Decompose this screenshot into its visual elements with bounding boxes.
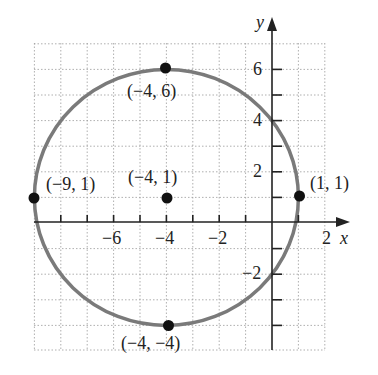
x-tick-label: 2 bbox=[322, 228, 331, 248]
y-tick-label: −2 bbox=[242, 263, 261, 283]
point-top bbox=[160, 63, 171, 74]
circle-graph: −6 −4 −2 2 x y 6 4 2 −2 (−4, 6) (−9, 1) … bbox=[0, 0, 378, 375]
point-center bbox=[162, 193, 173, 204]
point-bottom bbox=[163, 320, 174, 331]
x-tick-label: −6 bbox=[102, 228, 121, 248]
point-label-top: (−4, 6) bbox=[127, 81, 176, 102]
x-axis-arrow-icon bbox=[336, 217, 350, 227]
point-left bbox=[29, 193, 40, 204]
x-axis-label: x bbox=[339, 228, 348, 248]
point-label-left: (−9, 1) bbox=[46, 174, 95, 195]
x-tick-label: −4 bbox=[155, 228, 174, 248]
y-tick-label: 2 bbox=[253, 161, 262, 181]
y-tick-label: 6 bbox=[253, 59, 262, 79]
x-tick-label: −2 bbox=[208, 228, 227, 248]
y-axis-label: y bbox=[254, 12, 264, 32]
point-right bbox=[294, 191, 305, 202]
point-label-center: (−4, 1) bbox=[128, 167, 177, 188]
point-label-right: (1, 1) bbox=[310, 173, 349, 194]
y-axis-arrow-icon bbox=[267, 17, 277, 31]
point-label-bottom: (−4, −4) bbox=[121, 333, 180, 354]
grid bbox=[34, 43, 325, 350]
y-tick-label: 4 bbox=[253, 110, 262, 130]
chart-figure: −6 −4 −2 2 x y 6 4 2 −2 (−4, 6) (−9, 1) … bbox=[0, 0, 378, 375]
